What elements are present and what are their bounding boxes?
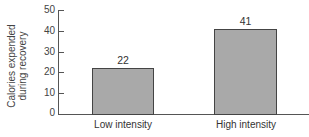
bar-high-intensity — [214, 29, 277, 115]
y-tick-label-20: 20 — [35, 66, 55, 77]
y-axis-label: Calories expended during recovery — [6, 11, 28, 121]
y-tick-40 — [58, 31, 64, 32]
bar-low-intensity — [92, 68, 154, 115]
bar-value-low-intensity: 22 — [92, 54, 154, 66]
y-tick-label-30: 30 — [35, 46, 55, 57]
y-axis-label-line-2: during recovery — [17, 11, 28, 121]
y-tick-10 — [58, 93, 64, 94]
bar-value-high-intensity: 41 — [214, 15, 277, 27]
y-tick-50 — [58, 10, 64, 11]
y-tick-label-0: 0 — [35, 107, 55, 118]
y-tick-30 — [58, 52, 64, 53]
x-category-low-intensity: Low intensity — [83, 119, 163, 130]
y-axis-line — [58, 10, 59, 115]
y-tick-label-10: 10 — [35, 87, 55, 98]
y-tick-label-40: 40 — [35, 25, 55, 36]
y-axis-label-line-1: Calories expended — [6, 11, 17, 121]
x-category-high-intensity: High intensity — [205, 119, 287, 130]
y-tick-label-50: 50 — [35, 4, 55, 15]
y-tick-20 — [58, 72, 64, 73]
